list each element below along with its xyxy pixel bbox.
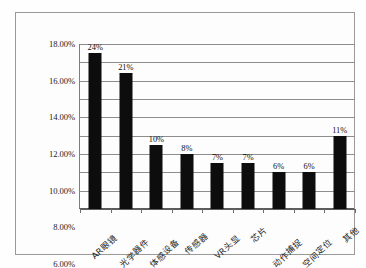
bar-slot: 8%	[172, 44, 203, 209]
x-axis-label: 动作捕捉	[269, 236, 304, 268]
bar-slot: 6%	[294, 44, 325, 209]
bar[interactable]	[303, 172, 316, 209]
y-axis-tick-label: 12.00%	[49, 149, 75, 159]
y-axis-tick-label: 10.00%	[49, 186, 75, 196]
bar-slot: 11%	[324, 44, 355, 209]
bar-slot: 7%	[233, 44, 264, 209]
bar[interactable]	[150, 145, 163, 209]
x-axis-labels-group: AR眼镜光学器件体感设备传感器VR头显芯片动作捕捉空间定位其他	[79, 211, 354, 268]
x-axis-label: 空间定位	[299, 236, 334, 268]
bar-slot: 6%	[263, 44, 294, 209]
bar-slot: 24%	[80, 44, 111, 209]
bar-value-label: 7%	[212, 153, 223, 162]
bar-value-label: 10%	[149, 135, 164, 144]
x-axis-label: 体感设备	[146, 236, 181, 268]
x-axis-label: 传感器	[182, 229, 211, 256]
bars-group: 24%21%10%8%7%7%6%6%11%	[80, 44, 355, 209]
x-axis-tick	[355, 209, 356, 213]
bar-slot: 21%	[111, 44, 142, 209]
bar[interactable]	[242, 163, 255, 209]
bar-value-label: 6%	[273, 162, 284, 171]
x-axis-label: 光学器件	[116, 236, 151, 268]
y-axis-tick-label: 16.00%	[49, 76, 75, 86]
y-axis-tick-label: 18.00%	[49, 39, 75, 49]
y-axis-tick-label: 8.00%	[53, 222, 75, 232]
x-axis-label: 芯片	[247, 223, 269, 244]
bar-slot: 7%	[202, 44, 233, 209]
bar-value-label: 8%	[181, 144, 192, 153]
bar-value-label: 6%	[304, 162, 315, 171]
x-axis-label: AR眼镜	[88, 232, 119, 261]
x-axis-label: 其他	[339, 223, 361, 244]
plot-area: 0.00%2.00%4.00%6.00%8.00%10.00%12.00%14.…	[79, 44, 354, 209]
bar[interactable]	[180, 154, 193, 209]
bar[interactable]	[333, 136, 346, 209]
bar-value-label: 21%	[118, 63, 133, 72]
gridline: 0.00%	[80, 209, 355, 210]
chart-frame: 0.00%2.00%4.00%6.00%8.00%10.00%12.00%14.…	[15, 12, 355, 255]
x-axis-label: VR头显	[211, 232, 242, 261]
bar[interactable]	[272, 172, 285, 209]
bar-value-label: 11%	[332, 126, 347, 135]
bar-value-label: 7%	[242, 153, 253, 162]
bar[interactable]	[89, 53, 102, 209]
bar-value-label: 24%	[88, 43, 103, 52]
bar-slot: 10%	[141, 44, 172, 209]
y-axis-tick-label: 6.00%	[53, 259, 75, 268]
bar[interactable]	[119, 73, 132, 209]
bar[interactable]	[211, 163, 224, 209]
y-axis-tick-label: 14.00%	[49, 112, 75, 122]
chart-image: 0.00%2.00%4.00%6.00%8.00%10.00%12.00%14.…	[0, 0, 366, 268]
